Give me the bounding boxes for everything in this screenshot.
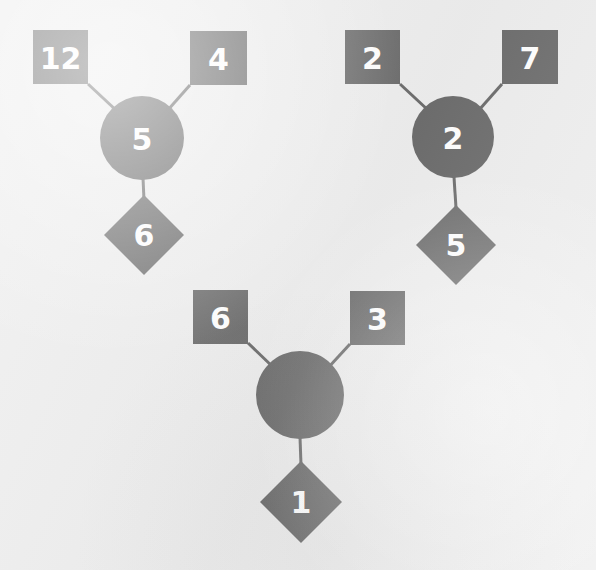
node-label: 2 xyxy=(443,121,464,156)
connector-circle-to-diamond xyxy=(300,437,301,465)
node-label: 5 xyxy=(132,122,153,157)
node-label: 7 xyxy=(520,41,541,76)
node-square-right[interactable]: 7 xyxy=(502,30,558,84)
node-label: 1 xyxy=(291,485,312,520)
node-cluster-diagram: 12 4 5 6 2 7 2 xyxy=(0,0,596,570)
node-label: 4 xyxy=(208,42,229,77)
node-label: 12 xyxy=(40,41,82,76)
node-square-left[interactable]: 12 xyxy=(33,30,88,84)
node-label: 6 xyxy=(210,301,231,336)
node-label: 5 xyxy=(446,228,467,263)
node-square-left[interactable]: 6 xyxy=(193,290,248,344)
node-circle-center[interactable]: 2 xyxy=(412,96,494,178)
connector-circle-to-diamond xyxy=(454,177,456,208)
node-circle-center[interactable]: 5 xyxy=(100,96,184,180)
node-square-right[interactable]: 4 xyxy=(190,31,247,85)
node-square-left[interactable]: 2 xyxy=(345,30,400,84)
circle-shape xyxy=(256,351,344,439)
node-label: 6 xyxy=(134,218,155,253)
node-label: 3 xyxy=(367,302,388,337)
node-label: 2 xyxy=(362,41,383,76)
node-circle-center[interactable] xyxy=(256,351,344,439)
node-square-right[interactable]: 3 xyxy=(350,291,405,345)
